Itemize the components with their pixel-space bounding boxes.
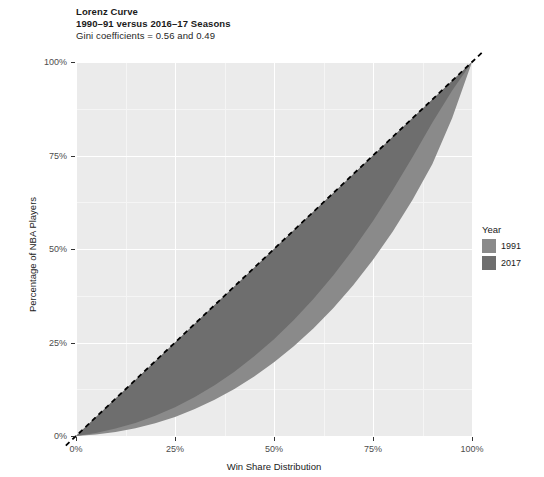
- y-axis-title: Percentage of NBA Players: [27, 135, 38, 375]
- legend-items: 19912017: [482, 238, 521, 271]
- chart-annotation: Gini coefficients = 0.56 and 0.49: [76, 30, 476, 42]
- legend-swatch-1991: [482, 239, 496, 253]
- legend: Year 19912017: [482, 224, 521, 272]
- y-tick-mark: [71, 343, 75, 344]
- x-tick-label: 0%: [69, 444, 82, 454]
- chart-title-block: Lorenz Curve 1990–91 versus 2016–17 Seas…: [76, 6, 476, 42]
- x-tick-mark: [274, 437, 275, 441]
- y-tick-mark: [71, 62, 75, 63]
- x-tick-label: 75%: [364, 444, 382, 454]
- y-tick-mark: [71, 156, 75, 157]
- y-tick-mark: [71, 436, 75, 437]
- x-tick-mark: [76, 437, 77, 441]
- y-tick-label: 100%: [44, 57, 67, 67]
- x-tick-mark: [175, 437, 176, 441]
- y-tick-label: 25%: [49, 338, 67, 348]
- chart-subtitle: 1990–91 versus 2016–17 Seasons: [76, 18, 476, 30]
- legend-title: Year: [482, 224, 521, 235]
- x-tick-label: 25%: [166, 444, 184, 454]
- y-tick-mark: [71, 249, 75, 250]
- y-tick-label: 75%: [49, 151, 67, 161]
- x-tick-mark: [472, 437, 473, 441]
- chart-root: Lorenz Curve 1990–91 versus 2016–17 Seas…: [0, 0, 544, 477]
- y-tick-label: 50%: [49, 244, 67, 254]
- legend-label-2017: 2017: [501, 258, 521, 268]
- legend-swatch-2017: [482, 256, 496, 270]
- plot-panel: [76, 62, 472, 436]
- x-tick-label: 100%: [460, 444, 483, 454]
- x-tick-mark: [373, 437, 374, 441]
- x-axis-title: Win Share Distribution: [76, 461, 472, 472]
- lorenz-area-2017: [76, 62, 472, 436]
- chart-title: Lorenz Curve: [76, 6, 476, 18]
- lorenz-areas: [76, 62, 472, 436]
- y-tick-label: 0%: [54, 431, 67, 441]
- x-tick-label: 50%: [265, 444, 283, 454]
- legend-item-2017[interactable]: 2017: [482, 255, 521, 271]
- legend-item-1991[interactable]: 1991: [482, 238, 521, 254]
- legend-label-1991: 1991: [501, 241, 521, 251]
